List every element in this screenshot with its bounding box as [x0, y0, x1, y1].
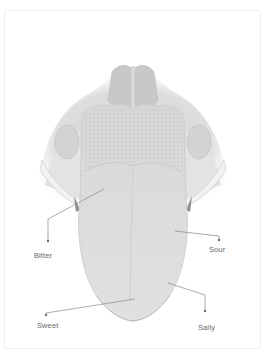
- leader-dot-sweet: [45, 314, 47, 316]
- tongue: [79, 104, 188, 321]
- label-bitter: Bitter: [34, 251, 52, 260]
- uvula: [108, 65, 158, 110]
- label-salty: Salty: [198, 323, 215, 332]
- leader-dot-sour: [218, 239, 220, 241]
- label-sweet: Sweet: [37, 321, 58, 330]
- label-sour: Sour: [209, 245, 225, 254]
- leader-dot-bitter: [47, 240, 49, 242]
- leader-dot-salty: [204, 310, 206, 312]
- tongue-diagram: [0, 0, 266, 355]
